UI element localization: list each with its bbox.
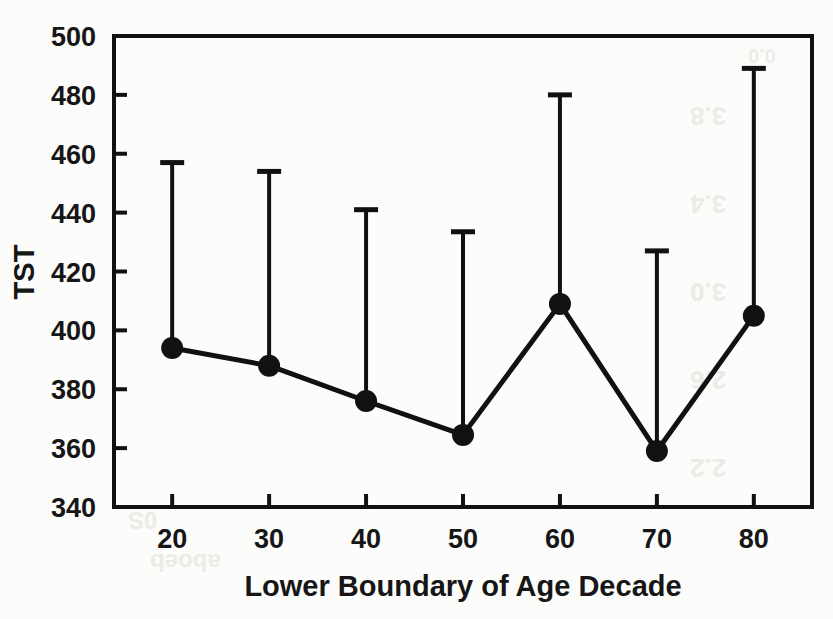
error-bars (160, 68, 766, 451)
x-tick-label: 50 (448, 524, 478, 554)
data-point-marker (646, 440, 668, 462)
x-axis-title: Lower Boundary of Age Decade (244, 570, 681, 602)
y-tick-label: 500 (51, 22, 96, 52)
data-point-marker (743, 305, 765, 327)
data-point-marker (549, 293, 571, 315)
y-tick-label: 340 (51, 493, 96, 523)
x-tick-label: 80 (739, 524, 769, 554)
x-tick-label: 70 (642, 524, 672, 554)
data-point-marker (161, 337, 183, 359)
data-point-marker (258, 355, 280, 377)
y-tick-label: 460 (51, 140, 96, 170)
data-point-marker (355, 390, 377, 412)
chart-svg: 340360380400420440460480500 203040506070… (0, 0, 833, 619)
y-tick-label: 420 (51, 258, 96, 288)
y-tick-label: 380 (51, 375, 96, 405)
x-tick-label: 40 (351, 524, 381, 554)
x-tick-label: 30 (254, 524, 284, 554)
y-tick-label: 480 (51, 81, 96, 111)
data-point-marker (452, 424, 474, 446)
x-tick-label: 60 (545, 524, 575, 554)
y-tick-label: 400 (51, 316, 96, 346)
y-axis-title: TST (8, 244, 40, 299)
x-tick-label: 20 (157, 524, 187, 554)
y-tick-label: 360 (51, 434, 96, 464)
figure-panel: 0.0 3.8 3.4 3.0 2.6 2.2 0S aboeb 3403603… (0, 0, 833, 619)
x-axis-tick-labels: 20304050607080 (157, 524, 769, 554)
y-axis-tick-labels: 340360380400420440460480500 (51, 22, 96, 523)
y-tick-label: 440 (51, 199, 96, 229)
